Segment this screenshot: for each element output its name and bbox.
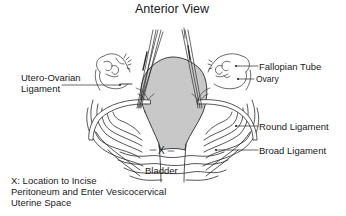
left-adnexa: [95, 54, 132, 90]
label-utero-ovarian-line1: Utero-Ovarian: [21, 72, 81, 83]
anatomy-diagram: Anterior View: [0, 0, 346, 216]
right-adnexa: [208, 54, 251, 90]
label-broad-ligament: Broad Ligament: [259, 145, 326, 156]
round-ligament-right: [198, 100, 257, 140]
legend-line-1: X: Location to Incise: [11, 175, 166, 186]
legend-line-2: Peritoneum and Enter Vesicocervical: [11, 186, 166, 197]
broad-ligament-folds-left: [87, 100, 143, 176]
incision-marker-x: X: [158, 145, 165, 156]
label-ovary: Ovary: [256, 74, 279, 85]
label-round-ligament: Round Ligament: [259, 121, 329, 132]
label-utero-ovarian-line2: Ligament: [21, 83, 60, 94]
legend-line-3: Uterine Space: [11, 197, 166, 208]
legend: X: Location to Incise Peritoneum and Ent…: [11, 175, 166, 208]
label-fallopian-tube: Fallopian Tube: [259, 61, 321, 72]
